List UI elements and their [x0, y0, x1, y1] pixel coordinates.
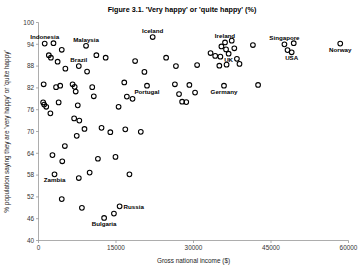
scatter-plot: 40465258647076828894100 0150003000045000… — [0, 0, 364, 273]
data-point-label: Portugal — [134, 88, 159, 95]
data-point — [193, 90, 198, 95]
data-point — [195, 63, 200, 68]
y-tick-label: 58 — [27, 171, 35, 178]
data-point — [232, 46, 237, 51]
data-point — [94, 53, 99, 58]
data-point — [42, 41, 47, 46]
data-point — [291, 41, 296, 46]
data-point — [208, 51, 213, 56]
data-point — [117, 204, 122, 209]
data-point — [76, 64, 81, 69]
data-point — [90, 85, 95, 90]
data-point — [80, 205, 85, 210]
data-point — [87, 170, 92, 175]
data-point — [218, 54, 223, 59]
data-point — [99, 126, 104, 131]
data-point — [59, 47, 64, 52]
x-tick-label: 0 — [37, 244, 41, 251]
data-point — [130, 96, 135, 101]
x-axis-title: Gross national income ($) — [157, 257, 230, 265]
data-point — [63, 144, 68, 149]
y-tick-label: 46 — [27, 215, 35, 222]
data-point-label: Norway — [329, 46, 352, 53]
data-point — [73, 89, 78, 94]
data-point — [77, 118, 82, 123]
data-point — [142, 70, 147, 75]
data-point — [85, 69, 90, 74]
data-point — [41, 82, 46, 87]
x-tick-label: 30000 — [185, 244, 203, 251]
data-point — [91, 94, 96, 99]
y-tick-label: 100 — [23, 19, 34, 26]
data-point — [217, 63, 222, 68]
data-point — [133, 59, 138, 64]
data-point — [256, 83, 261, 88]
data-point — [60, 159, 65, 164]
data-point-label: Ireland — [215, 32, 236, 39]
y-tick-label: 52 — [27, 193, 35, 200]
data-point — [56, 100, 61, 105]
data-point — [59, 197, 64, 202]
y-tick-label: 94 — [27, 41, 35, 48]
data-point — [75, 103, 80, 108]
data-point — [174, 64, 179, 69]
y-axis-tick-labels: 40465258647076828894100 — [23, 19, 34, 244]
data-point — [48, 111, 53, 116]
x-tick-label: 60000 — [340, 244, 358, 251]
x-tick-label: 45000 — [262, 244, 280, 251]
data-point — [122, 80, 127, 85]
data-point-label: Russia — [124, 203, 145, 210]
data-point — [76, 176, 81, 181]
data-point — [164, 55, 169, 60]
data-point — [50, 153, 55, 158]
figure-container: Figure 3.1. 'Very happy' or 'quite happy… — [0, 0, 364, 273]
data-point — [84, 43, 89, 48]
y-tick-label: 76 — [27, 106, 35, 113]
data-point — [127, 172, 132, 177]
data-point — [82, 127, 87, 132]
data-point — [224, 62, 229, 67]
data-point — [235, 56, 240, 61]
data-point-label: Singapore — [269, 34, 300, 41]
data-point — [237, 62, 242, 67]
data-point — [55, 59, 60, 64]
data-point — [108, 130, 113, 135]
x-tick-label: 15000 — [107, 244, 125, 251]
data-point-label: Germany — [211, 88, 238, 95]
data-point-label: Zambia — [44, 176, 66, 183]
data-point-labels: IndonesiaMalaysiaBrazilZambiaBulgariaRus… — [30, 27, 352, 227]
data-point-label: Brazil — [70, 56, 87, 63]
y-axis-title: % population saying they are 'very happy… — [3, 50, 11, 212]
data-point — [74, 134, 79, 139]
y-tick-label: 88 — [27, 62, 35, 69]
data-point-label: UK — [224, 56, 233, 63]
data-point — [113, 155, 118, 160]
data-point — [51, 41, 56, 46]
data-point — [150, 35, 155, 40]
y-tick-label: 70 — [27, 128, 35, 135]
data-point — [112, 211, 117, 216]
x-axis-tick-labels: 015000300004500060000 — [37, 244, 358, 251]
data-point — [138, 130, 143, 135]
data-point — [125, 94, 130, 99]
data-point — [58, 83, 63, 88]
data-point — [187, 83, 192, 88]
data-point-label: USA — [285, 54, 299, 61]
data-point-label: Bulgaria — [92, 220, 117, 227]
data-point — [177, 92, 182, 97]
data-point — [72, 116, 77, 121]
y-tick-label: 64 — [27, 150, 35, 157]
data-point — [173, 82, 178, 87]
y-tick-label: 40 — [27, 237, 35, 244]
data-point — [251, 43, 256, 48]
y-tick-label: 82 — [27, 84, 35, 91]
data-point — [123, 127, 128, 132]
data-point — [219, 44, 224, 49]
data-point-label: Malaysia — [73, 36, 99, 43]
data-point — [63, 66, 68, 71]
data-point — [96, 156, 101, 161]
data-point — [116, 104, 121, 109]
data-point-label: Indonesia — [30, 33, 59, 40]
data-point — [213, 54, 218, 59]
data-point — [223, 40, 228, 45]
